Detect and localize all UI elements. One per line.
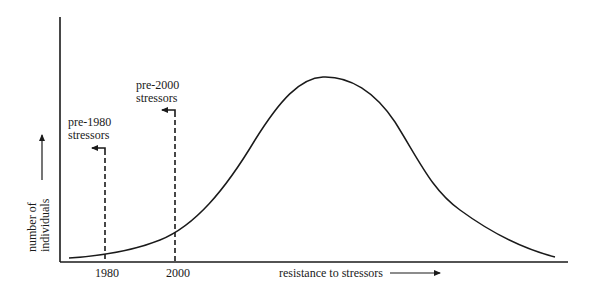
y-label-line2: individuals <box>38 198 52 252</box>
y-axis-label: number of individuals <box>25 198 52 252</box>
label-pre-1980-line2: stressors <box>68 128 110 142</box>
x-axis-label: resistance to stressors <box>279 266 383 280</box>
left-arrow-2000-icon <box>162 110 175 112</box>
left-arrow-1980-icon <box>92 148 105 150</box>
y-label-line1: number of <box>25 202 39 252</box>
label-pre-2000-line2: stressors <box>136 91 178 105</box>
stress-resistance-diagram: pre-1980 stressors 1980 pre-2000 stresso… <box>0 0 598 295</box>
label-pre-2000-line1: pre-2000 <box>136 78 179 92</box>
tick-2000: 2000 <box>166 266 190 280</box>
label-pre-1980-line1: pre-1980 <box>68 115 111 129</box>
tick-1980: 1980 <box>95 266 119 280</box>
threshold-2000: pre-2000 stressors 2000 <box>136 78 190 280</box>
